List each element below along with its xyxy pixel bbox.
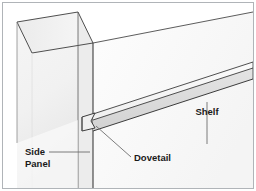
- label-shelf: Shelf: [195, 106, 219, 117]
- label-side-panel-line2: Panel: [25, 158, 50, 169]
- label-side-panel-line1: Side: [25, 146, 45, 157]
- label-dovetail: Dovetail: [134, 152, 171, 163]
- shelf-dovetail-diagram: Side Panel Dovetail Shelf: [0, 0, 256, 191]
- diagram-canvas: Side Panel Dovetail Shelf: [0, 0, 256, 191]
